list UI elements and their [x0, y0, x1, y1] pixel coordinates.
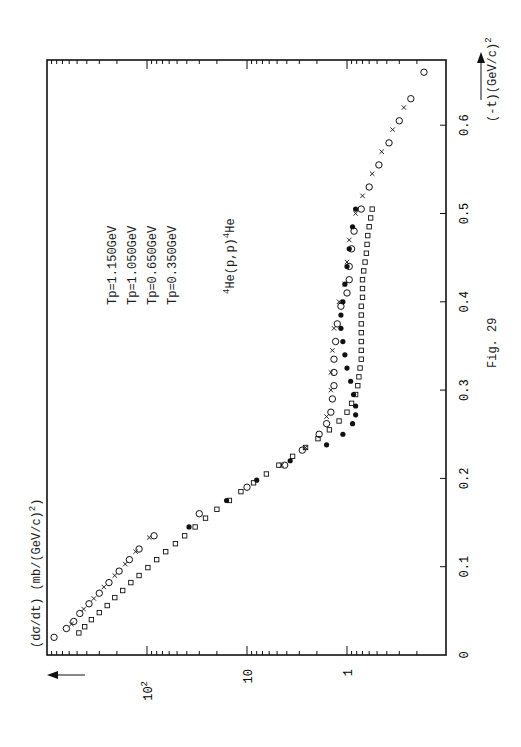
reaction-label: 4He(p,p)4He [222, 218, 238, 294]
x-tick-label: 0.1 [458, 556, 472, 578]
y-tick-label: 1 [342, 669, 356, 676]
legend-item-0: Tp=1.150GeV [106, 226, 120, 305]
x-tick-label: 0.4 [458, 291, 472, 313]
y-tick-label: 10 [242, 669, 256, 683]
y-axis-arrow-icon [47, 671, 85, 679]
x-tick-label: 0.6 [458, 114, 472, 136]
cross-section-plot: 102101 00.10.20.30.40.50.6 [0, 0, 521, 747]
x-tick-label: 0.5 [458, 203, 472, 225]
data-points [51, 69, 427, 641]
y-tick-label: 102 [140, 681, 156, 701]
plot-frame [47, 60, 446, 655]
legend-item-2: Tp=0.650GeV [146, 226, 160, 305]
legend-item-1: Tp=1.050GeV [126, 226, 140, 305]
x-axis-ticks: 00.10.20.30.40.50.6 [440, 114, 472, 658]
x-axis-label: (-t)(GeV/c)2 [484, 37, 500, 122]
figure-caption: Fig. 29 [486, 318, 500, 368]
x-tick-label: 0 [458, 651, 472, 658]
legend-item-3: Tp=0.350GeV [166, 226, 180, 305]
y-axis-label: (dσ/dt) (mb/(GeV/c)2) [28, 499, 44, 648]
x-tick-label: 0.3 [458, 379, 472, 401]
y-axis-ticks: 102101 [52, 60, 417, 701]
x-tick-label: 0.2 [458, 468, 472, 490]
